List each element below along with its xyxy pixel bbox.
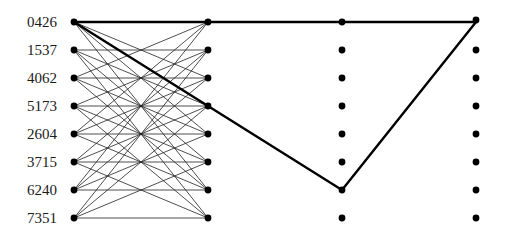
node [205,215,212,222]
node [205,131,212,138]
node [71,187,78,194]
row-label: 6240 [27,182,57,198]
row-label: 0426 [27,14,58,30]
node [339,75,346,82]
node [473,47,480,54]
node [473,75,480,82]
node [205,159,212,166]
node [71,131,78,138]
node [339,187,346,194]
node [71,159,78,166]
node [339,103,346,110]
node [473,131,480,138]
node [339,159,346,166]
node [205,75,212,82]
node [473,103,480,110]
row-label: 1537 [27,42,58,58]
node [71,103,78,110]
row-label: 4062 [27,70,57,86]
node [339,19,346,26]
node [339,131,346,138]
node [205,19,212,26]
network-diagram: 04261537406251732604371562407351 [0,0,507,239]
node [205,187,212,194]
node [71,19,78,26]
node [205,103,212,110]
node [339,215,346,222]
row-label: 2604 [27,126,58,142]
node [205,47,212,54]
node-grid [71,17,480,222]
node [473,215,480,222]
row-label: 3715 [27,154,57,170]
row-label: 5173 [27,98,57,114]
node [473,159,480,166]
node [71,75,78,82]
node [473,17,480,24]
node [339,47,346,54]
node [71,215,78,222]
node [71,47,78,54]
bipartite-edges [74,22,208,218]
path-edge [342,22,476,190]
node [473,187,480,194]
row-labels: 04261537406251732604371562407351 [27,14,58,226]
row-label: 7351 [27,210,57,226]
